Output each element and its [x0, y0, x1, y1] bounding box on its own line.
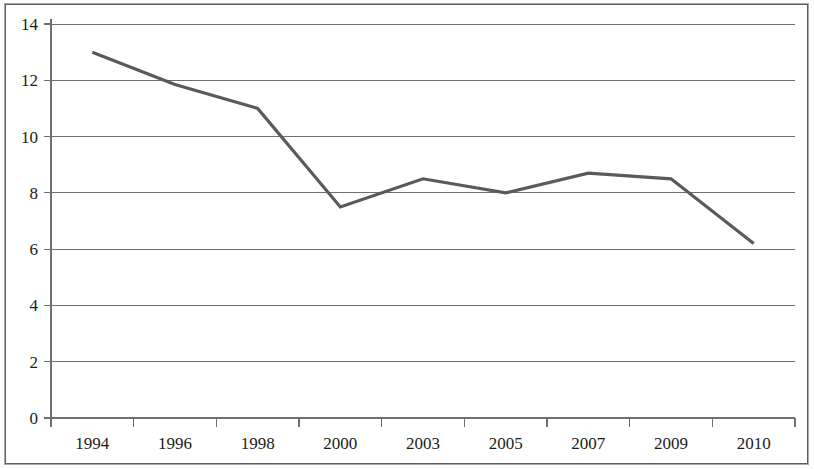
y-axis-tick-labels: 02468101214	[21, 15, 39, 428]
tick-marks	[44, 24, 795, 427]
y-tick-label-6: 6	[30, 240, 39, 259]
y-tick-label-2: 2	[30, 353, 39, 372]
x-tick-label-2009: 2009	[654, 434, 688, 453]
y-tick-label-12: 12	[21, 71, 38, 90]
x-axis-tick-labels: 199419961998200020032005200720092010	[75, 434, 770, 453]
y-tick-label-0: 0	[30, 409, 39, 428]
gridlines	[51, 24, 795, 418]
y-tick-label-8: 8	[30, 184, 39, 203]
line-chart: 02468101214 1994199619982000200320052007…	[0, 0, 814, 469]
y-tick-label-4: 4	[30, 296, 39, 315]
x-tick-label-2003: 2003	[406, 434, 440, 453]
x-tick-label-2000: 2000	[323, 434, 357, 453]
x-tick-label-1994: 1994	[75, 434, 110, 453]
y-tick-label-14: 14	[21, 15, 39, 34]
series-line-0	[92, 52, 753, 243]
x-tick-label-2005: 2005	[489, 434, 523, 453]
x-tick-label-1998: 1998	[241, 434, 275, 453]
y-tick-label-10: 10	[21, 128, 38, 147]
x-tick-label-1996: 1996	[158, 434, 192, 453]
chart-page: 02468101214 1994199619982000200320052007…	[0, 0, 814, 469]
data-series-line	[92, 52, 753, 243]
x-tick-label-2007: 2007	[571, 434, 606, 453]
x-tick-label-2010: 2010	[737, 434, 771, 453]
